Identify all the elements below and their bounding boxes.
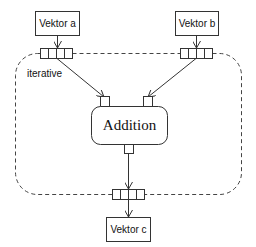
input-port-strip-b	[181, 49, 213, 59]
port-cell	[181, 49, 189, 59]
port-cell	[65, 49, 73, 59]
port-cell	[205, 49, 213, 59]
port-cell	[49, 49, 57, 59]
port-cell	[137, 190, 145, 200]
port-cell	[113, 190, 121, 200]
addition-label: Addition	[103, 117, 157, 133]
vektor-b-node[interactable]: Vektor b	[176, 12, 219, 36]
addition-input-port-2	[144, 97, 153, 107]
vektor-b-label: Vektor b	[179, 18, 216, 29]
input-port-strip-a	[41, 49, 73, 59]
edge-a-to-addition	[57, 59, 104, 98]
vektor-a-node[interactable]: Vektor a	[36, 12, 80, 36]
vektor-c-label: Vektor c	[110, 224, 146, 235]
port-cell	[121, 190, 129, 200]
output-port-strip-c	[113, 190, 145, 200]
addition-node[interactable]: Addition	[92, 97, 168, 154]
port-cell	[129, 190, 137, 200]
iterative-label: iterative	[27, 68, 62, 79]
port-cell	[57, 49, 65, 59]
port-cell	[197, 49, 205, 59]
diagram-canvas: iterative Vektor a Vektor b Addition	[0, 0, 256, 247]
vektor-a-label: Vektor a	[39, 18, 76, 29]
port-cell	[189, 49, 197, 59]
vektor-c-node[interactable]: Vektor c	[107, 218, 151, 242]
edge-b-to-addition	[148, 59, 196, 98]
addition-input-port-1	[101, 97, 110, 107]
port-cell	[41, 49, 49, 59]
addition-output-port	[125, 145, 134, 154]
